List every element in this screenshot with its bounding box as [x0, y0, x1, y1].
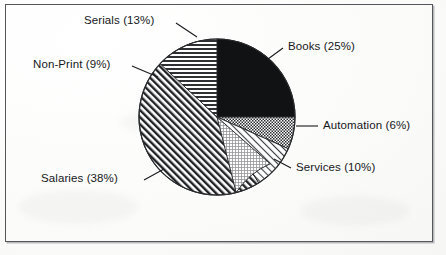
pie-chart: Serials (13%) Non-Print (9%) Salaries (3… — [0, 0, 446, 255]
pie-slices — [139, 39, 295, 195]
pie-label-salaries: Salaries (38%) — [41, 172, 118, 184]
pie-label-books: Books (25%) — [288, 40, 355, 52]
leader-line-serials — [176, 23, 197, 37]
pie-label-services: Services (10%) — [296, 161, 375, 173]
pie-label-automation: Automation (6%) — [323, 119, 410, 131]
figure-root: Serials (13%) Non-Print (9%) Salaries (3… — [0, 0, 446, 255]
pie-label-serials: Serials (13%) — [84, 14, 154, 26]
leader-line-salaries — [144, 169, 164, 180]
leader-line-books — [268, 48, 283, 59]
pie-slice-books — [217, 39, 295, 117]
pie-label-non-print: Non-Print (9%) — [33, 58, 110, 70]
